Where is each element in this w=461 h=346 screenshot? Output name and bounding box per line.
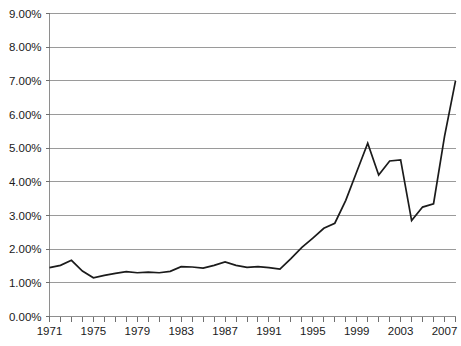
x-tick-label-2007: 2007 [432,325,458,337]
x-tick-label-1971: 1971 [37,325,63,337]
y-axis-tick-labels: 9.00%8.00%7.00%6.00%5.00%4.00%3.00%2.00%… [9,8,42,323]
x-tick-label-2003: 2003 [388,325,414,337]
y-tick-label-0: 0.00% [9,311,42,323]
y-tick-label-8: 8.00% [9,41,42,53]
x-axis-ticks [50,317,456,322]
x-tick-label-1987: 1987 [212,325,238,337]
gridlines [50,14,456,317]
x-axis-tick-labels: 1971197519791983198719911995199920032007 [37,325,458,337]
x-tick-label-1995: 1995 [300,325,326,337]
data-line-series-1 [50,81,456,278]
y-tick-label-9: 9.00% [9,8,42,20]
x-tick-label-1975: 1975 [81,325,107,337]
y-tick-label-1: 1.00% [9,277,42,289]
x-tick-label-1991: 1991 [256,325,282,337]
line-chart: 9.00%8.00%7.00%6.00%5.00%4.00%3.00%2.00%… [0,0,461,346]
x-tick-label-1979: 1979 [124,325,150,337]
x-tick-label-1999: 1999 [344,325,370,337]
x-tick-label-1983: 1983 [168,325,194,337]
y-tick-label-6: 6.00% [9,109,42,121]
data-series-group [50,81,456,278]
y-tick-label-2: 2.00% [9,243,42,255]
y-tick-label-7: 7.00% [9,75,42,87]
chart-container: 9.00%8.00%7.00%6.00%5.00%4.00%3.00%2.00%… [0,0,461,346]
y-tick-label-3: 3.00% [9,210,42,222]
y-tick-label-4: 4.00% [9,176,42,188]
y-tick-label-5: 5.00% [9,142,42,154]
